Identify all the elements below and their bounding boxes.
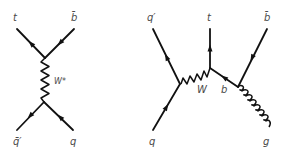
label-bbar: b̄: [264, 11, 270, 23]
arrow-icon: [208, 45, 213, 52]
w-star-propagator: [41, 58, 49, 102]
gluon-line: [238, 86, 270, 127]
label-q-prime: q′: [147, 12, 156, 23]
label-t: t: [207, 12, 212, 23]
diagram-t-channel-gluon: q′ t b̄ W b q g: [147, 11, 270, 147]
label-b: b: [221, 84, 227, 95]
w-boson-propagator: [181, 68, 210, 84]
label-t: t: [13, 12, 18, 23]
label-w-star: W*: [54, 77, 66, 86]
feynman-diagrams: t b̄ W* q̄′ q q′ t b̄ W b q g: [0, 0, 284, 153]
label-q: q: [70, 136, 76, 147]
label-g: g: [263, 136, 269, 147]
diagram-s-channel: t b̄ W* q̄′ q: [13, 11, 77, 147]
label-w: W: [197, 84, 208, 95]
label-qbar-prime: q̄′: [13, 136, 22, 147]
label-q: q: [149, 136, 155, 147]
label-bbar: b̄: [71, 11, 77, 23]
